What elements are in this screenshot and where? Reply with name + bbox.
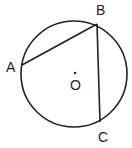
label-a: A [6, 59, 16, 75]
label-o: O [70, 77, 81, 93]
label-b: B [96, 2, 105, 18]
chord-bc [97, 24, 100, 122]
center-point-o [74, 72, 77, 75]
chord-ab [22, 24, 97, 65]
geometry-diagram: A B C O [0, 0, 132, 148]
label-c: C [98, 129, 108, 145]
